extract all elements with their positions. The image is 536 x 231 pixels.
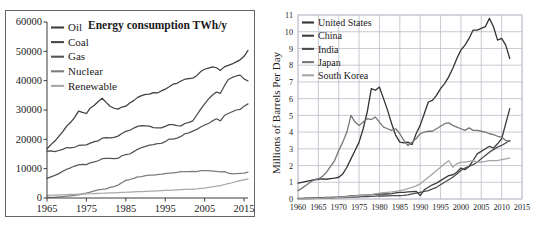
- legend-item-india[interactable]: India: [302, 44, 339, 55]
- x-tick-label: 1990: [412, 203, 428, 212]
- x-tick-label: 2005: [473, 203, 489, 212]
- y-tick-label: 30000: [16, 104, 42, 115]
- legend-label: Renewable: [68, 80, 117, 92]
- x-tick-label: 2015: [234, 203, 255, 214]
- y-axis-title: Millions of Barrels Per Day: [270, 51, 282, 174]
- y-tick-label: 5: [289, 112, 293, 121]
- figure-two-panel: 6000050000400003000020000100000196519751…: [0, 0, 536, 231]
- x-tick-label: 2015: [514, 203, 530, 212]
- chart-panel-oil-consumption: 1110987654321019601965197019751980198519…: [268, 0, 536, 231]
- oil-consumption-chart: 1110987654321019601965197019751980198519…: [268, 0, 536, 231]
- y-tick-label: 60000: [16, 16, 42, 27]
- legend-label: China: [318, 30, 342, 41]
- legend-left[interactable]: OilCoalGasNuclearRenewable: [51, 21, 117, 91]
- legend-label: Japan: [318, 57, 341, 68]
- x-tick-label: 2000: [453, 203, 469, 212]
- y-tick-label: 1: [289, 178, 293, 187]
- legend-item-coal[interactable]: Coal: [51, 36, 89, 48]
- series-line-gas: [47, 104, 248, 179]
- legend-item-nuclear[interactable]: Nuclear: [51, 65, 103, 77]
- energy-consumption-chart: 6000050000400003000020000100000196519751…: [0, 0, 268, 231]
- y-tick-label: 20000: [16, 134, 42, 145]
- y-tick-label: 10: [285, 28, 293, 37]
- x-tick-label: 1980: [371, 203, 387, 212]
- legend-item-united-states[interactable]: United States: [302, 17, 372, 28]
- x-tick-label: 1970: [331, 203, 347, 212]
- y-tick-label: 9: [289, 45, 293, 54]
- x-tick-label: 2005: [194, 203, 215, 214]
- x-tick-label: 1995: [432, 203, 448, 212]
- legend-item-gas[interactable]: Gas: [51, 50, 85, 62]
- series-line-nuclear: [47, 171, 248, 198]
- y-tick-label: 0: [37, 192, 42, 203]
- tick-labels-left: 6000050000400003000020000100000196519751…: [16, 16, 255, 214]
- legend-label: Oil: [68, 21, 82, 33]
- y-tick-label: 50000: [16, 46, 42, 57]
- x-tick-label: 1985: [115, 203, 136, 214]
- legend-item-japan[interactable]: Japan: [302, 57, 341, 68]
- y-tick-label: 10000: [16, 163, 42, 174]
- y-tick-label: 40000: [16, 75, 42, 86]
- legend-item-renewable[interactable]: Renewable: [51, 80, 117, 92]
- legend-label: United States: [318, 17, 372, 28]
- x-tick-label: 1965: [37, 203, 58, 214]
- x-tick-label: 1960: [290, 203, 306, 212]
- chart-title: Energy consumption TWh/y: [88, 19, 227, 32]
- x-tick-label: 1965: [310, 203, 326, 212]
- x-tick-label: 1995: [155, 203, 176, 214]
- legend-label: Nuclear: [68, 65, 103, 77]
- legend-right[interactable]: United StatesChinaIndiaJapanSouth Korea: [302, 17, 372, 81]
- legend-label: Gas: [68, 50, 85, 62]
- series-line-china: [298, 109, 510, 199]
- x-tick-label: 1975: [76, 203, 97, 214]
- chart-panel-energy-consumption: 6000050000400003000020000100000196519751…: [0, 0, 268, 231]
- y-tick-label: 8: [289, 61, 293, 70]
- x-tick-label: 1975: [351, 203, 367, 212]
- y-tick-label: 6: [289, 95, 293, 104]
- legend-label: Coal: [68, 36, 89, 48]
- series-line-renewable: [47, 179, 248, 195]
- x-tick-label: 2010: [493, 203, 509, 212]
- legend-item-oil[interactable]: Oil: [51, 21, 82, 33]
- legend-item-south-korea[interactable]: South Korea: [302, 70, 369, 81]
- y-tick-label: 4: [289, 128, 293, 137]
- y-tick-label: 3: [289, 145, 293, 154]
- y-tick-label: 11: [285, 11, 293, 20]
- legend-label: South Korea: [318, 70, 369, 81]
- y-tick-label: 2: [289, 162, 293, 171]
- x-tick-label: 1985: [392, 203, 408, 212]
- legend-label: India: [318, 44, 339, 55]
- axes-left: [44, 22, 249, 202]
- y-tick-label: 7: [289, 78, 293, 87]
